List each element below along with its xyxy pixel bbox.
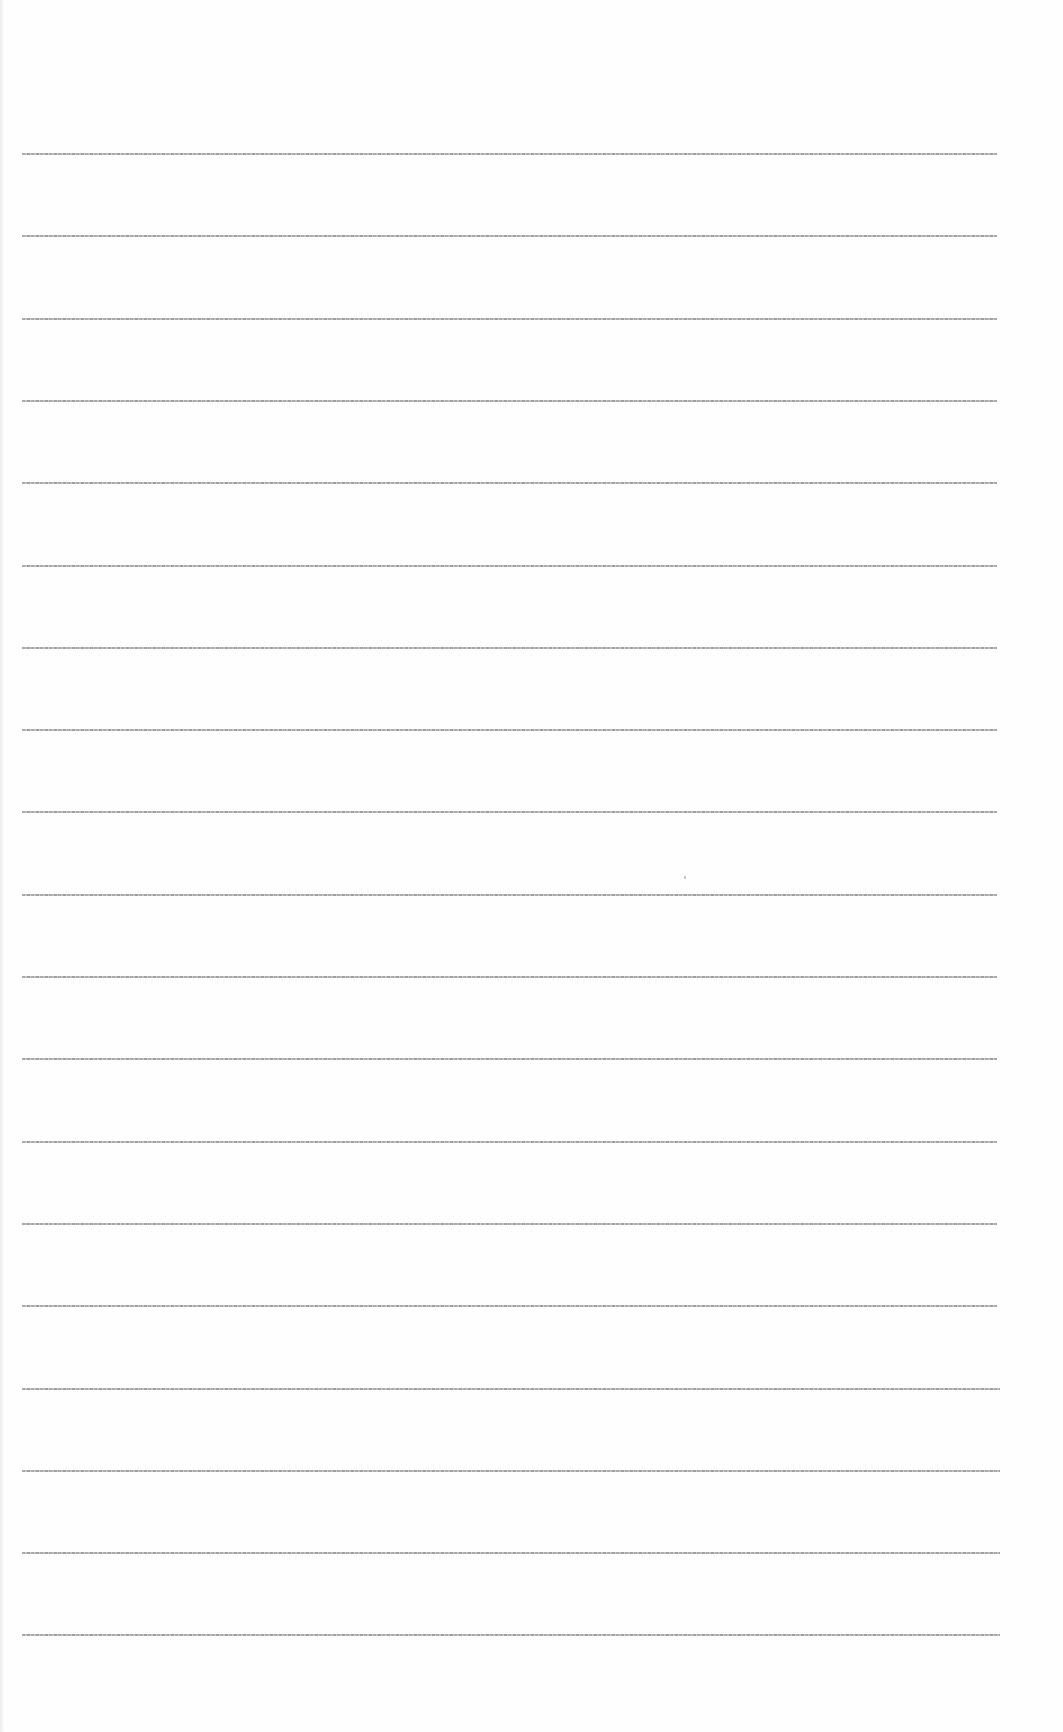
ruled-line xyxy=(22,235,997,237)
ruled-line xyxy=(22,976,997,978)
ruled-line xyxy=(22,894,997,896)
ruled-line xyxy=(22,1058,997,1060)
ruled-line xyxy=(22,153,997,155)
ruled-line xyxy=(22,647,997,649)
ruled-line xyxy=(22,1388,1000,1390)
ruled-line xyxy=(22,1305,997,1307)
ruled-line xyxy=(22,400,997,402)
ruled-line xyxy=(22,1470,1000,1472)
ruled-line xyxy=(22,729,997,731)
lined-paper-sheet xyxy=(0,0,1063,1732)
ruled-line xyxy=(22,1141,997,1143)
paper-speck xyxy=(684,876,686,879)
ruled-line xyxy=(22,1552,1000,1554)
page-edge-shadow xyxy=(0,0,4,1732)
ruled-line xyxy=(22,482,997,484)
ruled-line xyxy=(22,565,997,567)
ruled-line xyxy=(22,1223,997,1225)
ruled-line xyxy=(22,318,997,320)
ruled-line xyxy=(22,811,997,813)
ruled-line xyxy=(22,1634,1000,1636)
